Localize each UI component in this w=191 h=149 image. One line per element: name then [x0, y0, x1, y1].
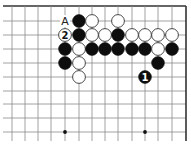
black-stone — [99, 43, 112, 56]
black-stone-icon — [99, 43, 112, 56]
black-stone-icon — [73, 29, 86, 42]
white-stone-icon — [86, 29, 99, 42]
white-stone-icon — [86, 15, 99, 28]
black-stone-icon — [112, 29, 125, 42]
white-stone — [99, 29, 112, 42]
white-stone-icon — [73, 57, 86, 70]
go-board: 21 A — [0, 0, 191, 149]
white-stone-icon — [152, 29, 165, 42]
white-stone — [139, 29, 152, 42]
white-stone-icon — [126, 29, 139, 42]
black-stone-icon — [73, 15, 86, 28]
star-point-icon — [143, 130, 147, 134]
white-stone-icon — [73, 71, 86, 84]
white-stone — [86, 29, 99, 42]
black-stone — [112, 43, 125, 56]
black-stone-icon — [152, 57, 165, 70]
black-stone — [112, 29, 125, 42]
black-stone-icon — [59, 57, 72, 70]
markers: A — [60, 15, 70, 28]
black-stone — [59, 43, 72, 56]
white-stone-icon — [112, 15, 125, 28]
point-marker-label: A — [61, 15, 69, 28]
black-stone-icon — [86, 43, 99, 56]
black-stone — [73, 15, 86, 28]
black-stone — [73, 29, 86, 42]
black-stone — [59, 57, 72, 70]
black-stone — [152, 57, 165, 70]
stones: 21 — [59, 15, 179, 84]
white-stone-icon — [139, 29, 152, 42]
black-stone — [139, 43, 152, 56]
black-stone — [166, 43, 179, 56]
white-stone — [152, 43, 165, 56]
white-stone — [152, 29, 165, 42]
white-stone-icon — [73, 43, 86, 56]
white-stone-icon — [166, 29, 179, 42]
black-stone: 1 — [139, 71, 152, 84]
move-number-label: 2 — [62, 30, 69, 41]
white-stone — [73, 71, 86, 84]
white-stone — [73, 57, 86, 70]
star-point-icon — [63, 130, 67, 134]
black-stone — [126, 43, 139, 56]
black-stone-icon — [126, 43, 139, 56]
white-stone: 2 — [59, 29, 72, 42]
white-stone-icon — [152, 43, 165, 56]
white-stone — [73, 43, 86, 56]
white-stone — [126, 29, 139, 42]
black-stone-icon — [59, 43, 72, 56]
move-number-label: 1 — [142, 72, 149, 83]
white-stone-icon — [99, 29, 112, 42]
black-stone-icon — [139, 43, 152, 56]
white-stone — [86, 15, 99, 28]
white-stone — [112, 15, 125, 28]
black-stone — [86, 43, 99, 56]
black-stone-icon — [112, 43, 125, 56]
white-stone — [166, 29, 179, 42]
black-stone-icon — [166, 43, 179, 56]
